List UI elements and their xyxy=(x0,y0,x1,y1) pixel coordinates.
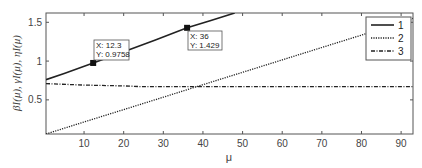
y-axis-label: βI(μ), γI(μ), ηI(μ) xyxy=(10,35,23,112)
x-tick-label: 50 xyxy=(237,138,249,149)
y-tick-label: 1 xyxy=(36,56,42,67)
datatip-x: X: 12.3 xyxy=(96,41,122,50)
x-tick-label: 40 xyxy=(197,138,209,149)
chart-svg: 1020304050607080900.511.5 X: 12.3Y: 0.97… xyxy=(0,0,422,168)
datatip-marker[interactable] xyxy=(90,60,96,66)
plot-area xyxy=(46,13,413,134)
x-tick-label: 70 xyxy=(316,138,328,149)
x-axis-label: μ xyxy=(226,151,232,163)
y-tick-label: 1.5 xyxy=(28,17,42,28)
datatip-y: Y: 0.9758 xyxy=(96,50,130,59)
x-tick-label: 90 xyxy=(396,138,408,149)
x-tick-label: 60 xyxy=(277,138,289,149)
legend-label-1: 1 xyxy=(398,20,404,31)
legend-label-2: 2 xyxy=(398,33,404,44)
datatip-marker[interactable] xyxy=(184,25,190,31)
legend: 1 2 3 xyxy=(366,17,411,60)
x-tick-label: 20 xyxy=(118,138,130,149)
legend-label-3: 3 xyxy=(398,46,404,57)
chart: 1020304050607080900.511.5 X: 12.3Y: 0.97… xyxy=(0,0,422,168)
x-tick-label: 30 xyxy=(158,138,170,149)
datatip-y: Y: 1.429 xyxy=(190,41,220,50)
x-tick-label: 10 xyxy=(78,138,90,149)
y-tick-label: 0.5 xyxy=(28,94,42,105)
datatip-x: X: 36 xyxy=(190,32,209,41)
x-tick-label: 80 xyxy=(356,138,368,149)
